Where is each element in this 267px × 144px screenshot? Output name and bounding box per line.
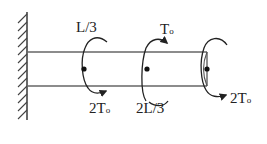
torque-arrow-3 bbox=[201, 39, 227, 97]
label-torque-to: To bbox=[160, 21, 174, 37]
label-torque-2to-1: 2To bbox=[89, 100, 111, 116]
label-2l-third: 2L/3 bbox=[136, 100, 164, 116]
label-l-third: L/3 bbox=[76, 19, 97, 35]
torsion-diagram: L/3 To 2To 2L/3 2To bbox=[0, 0, 267, 144]
torque-arrow-1 bbox=[81, 38, 107, 93]
shaft bbox=[27, 52, 207, 86]
fixed-wall bbox=[18, 12, 27, 120]
label-torque-2to-end: 2To bbox=[230, 90, 252, 106]
torque-arrow-2 bbox=[142, 39, 168, 105]
